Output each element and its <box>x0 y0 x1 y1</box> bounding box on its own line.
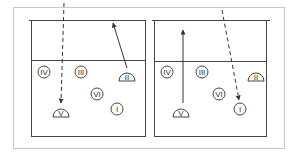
volleyball-rotation-diagram: IVIIIIIVIVIIVIIIIIVIVI <box>0 0 292 153</box>
player-iv-left: IV <box>38 66 50 78</box>
player-label: III <box>199 68 206 77</box>
player-label: VI <box>215 90 223 99</box>
player-label: IV <box>163 68 171 77</box>
player-label: II <box>125 73 129 82</box>
player-label: V <box>58 109 64 118</box>
player-label: VI <box>93 90 101 99</box>
player-vi-left: VI <box>91 88 103 100</box>
player-label: I <box>116 105 118 114</box>
player-label: IV <box>40 68 48 77</box>
player-label: V <box>178 109 184 118</box>
player-label: II <box>254 73 258 82</box>
player-label: I <box>239 105 241 114</box>
player-i-left: I <box>111 103 123 115</box>
player-iv-right: IV <box>161 66 173 78</box>
player-vi-right: VI <box>213 88 225 100</box>
player-label: III <box>78 68 85 77</box>
player-iii-left: III <box>75 66 87 78</box>
outer-frame <box>14 8 285 149</box>
player-iii-right: III <box>196 66 208 78</box>
player-i-right: I <box>234 103 246 115</box>
